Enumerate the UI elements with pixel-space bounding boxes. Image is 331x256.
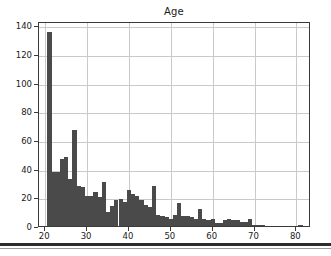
y-tick-label: 0 [4, 222, 32, 232]
x-tick-label: 50 [164, 231, 175, 241]
bottom-rule-thin [0, 248, 331, 249]
y-tick-label: 120 [4, 50, 32, 60]
x-tick-label: 60 [206, 231, 217, 241]
plot-area [38, 22, 310, 227]
histogram-bar [298, 225, 302, 226]
x-tick-mark [128, 227, 129, 231]
x-tick-label: 80 [290, 231, 301, 241]
x-tick-label: 40 [123, 231, 134, 241]
y-tick-label: 100 [4, 79, 32, 89]
chart-title: Age [38, 6, 310, 17]
y-tick-label: 140 [4, 21, 32, 31]
y-tick-label: 40 [4, 165, 32, 175]
x-tick-mark [212, 227, 213, 231]
bar-series [39, 23, 309, 226]
histogram-bar [261, 225, 265, 226]
x-tick-mark [295, 227, 296, 231]
x-tick-mark [44, 227, 45, 231]
x-tick-mark [170, 227, 171, 231]
x-tick-label: 30 [81, 231, 92, 241]
bottom-rule-thick [0, 243, 331, 246]
y-tick-label: 80 [4, 107, 32, 117]
x-tick-label: 70 [248, 231, 259, 241]
x-tick-mark [86, 227, 87, 231]
y-tick-label: 20 [4, 193, 32, 203]
x-tick-mark [254, 227, 255, 231]
y-tick-mark [34, 227, 38, 228]
y-tick-label: 60 [4, 136, 32, 146]
x-tick-label: 20 [39, 231, 50, 241]
histogram-figure: Age 020406080100120140 20304050607080 [0, 0, 331, 256]
